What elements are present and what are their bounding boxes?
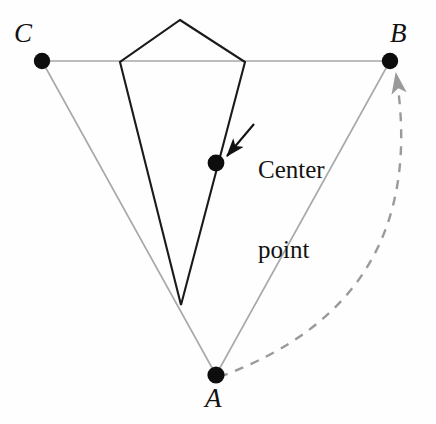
callout-line-2: point xyxy=(258,237,325,264)
center-point-callout: Center point xyxy=(258,104,325,316)
kite-outline xyxy=(120,20,245,305)
callout-line-1: Center xyxy=(258,157,325,184)
center-point-dot xyxy=(208,155,225,172)
vertex-label-a: A xyxy=(205,385,222,412)
vertex-label-c: C xyxy=(14,20,32,47)
callout-arrow xyxy=(227,124,254,156)
kite-shape xyxy=(120,20,245,305)
figure-canvas xyxy=(0,0,436,424)
vertex-label-b: B xyxy=(390,20,407,47)
triangle-abc xyxy=(42,61,390,375)
vertex-dot-b xyxy=(382,53,398,69)
geometry-figure: C B A Center point xyxy=(0,0,436,424)
vertex-dot-a xyxy=(207,366,224,383)
vertex-dot-c xyxy=(34,53,50,69)
triangle-edge-ca xyxy=(42,61,216,375)
